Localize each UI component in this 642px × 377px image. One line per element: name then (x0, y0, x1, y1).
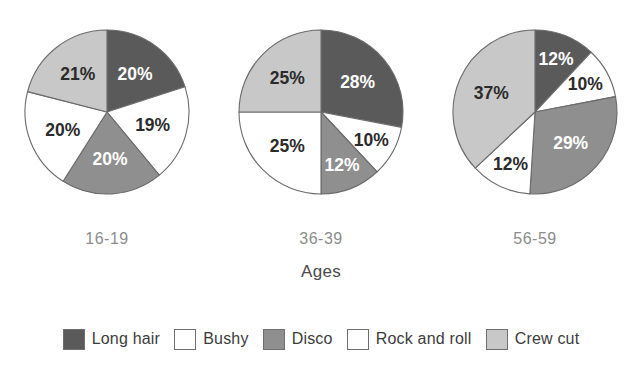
slice-value-label: 20% (45, 120, 80, 140)
legend-label: Bushy (203, 330, 248, 348)
age-group-label-0: 16-19 (0, 230, 214, 248)
legend-label: Disco (292, 330, 333, 348)
legend-label: Crew cut (515, 330, 580, 348)
legend-swatch-icon (486, 329, 508, 350)
legend-swatch-icon (174, 329, 196, 350)
pie-chart-group-0: 20%19%20%20%21% 16-19 (0, 0, 214, 250)
slice-value-label: 29% (553, 133, 588, 153)
legend-item[interactable]: Disco (263, 329, 333, 350)
slice-value-label: 21% (60, 64, 95, 84)
age-group-label-2: 56-59 (428, 230, 642, 248)
chart-legend: Long hairBushyDiscoRock and rollCrew cut (0, 322, 642, 356)
pie-charts-row: 20%19%20%20%21% 16-19 28%10%12%25%25% 36… (0, 0, 642, 250)
pie-svg-1: 28%10%12%25%25% (231, 22, 411, 202)
slice-value-label: 12% (493, 154, 528, 174)
slice-value-label: 25% (270, 68, 305, 88)
legend-item[interactable]: Rock and roll (347, 329, 472, 350)
slice-value-label: 37% (474, 83, 509, 103)
pie-chart-group-1: 28%10%12%25%25% 36-39 (214, 0, 428, 250)
pie-chart-group-2: 12%10%29%12%37% 56-59 (428, 0, 642, 250)
slice-value-label: 28% (340, 72, 375, 92)
slice-value-label: 10% (354, 130, 389, 150)
legend-label: Rock and roll (376, 330, 472, 348)
slice-value-label: 20% (117, 64, 152, 84)
age-group-label-1: 36-39 (214, 230, 428, 248)
slice-value-label: 12% (539, 49, 574, 69)
legend-item[interactable]: Long hair (63, 329, 161, 350)
legend-item[interactable]: Crew cut (486, 329, 580, 350)
pie-chart-figure: 20%19%20%20%21% 16-19 28%10%12%25%25% 36… (0, 0, 642, 377)
legend-swatch-icon (347, 329, 369, 350)
slice-value-label: 12% (325, 155, 360, 175)
slice-value-label: 20% (92, 149, 127, 169)
legend-item[interactable]: Bushy (174, 329, 248, 350)
legend-swatch-icon (63, 329, 85, 350)
slice-value-label: 19% (135, 115, 170, 135)
slice-value-label: 10% (568, 74, 603, 94)
pie-svg-2: 12%10%29%12%37% (445, 22, 625, 202)
slice-value-label: 25% (270, 136, 305, 156)
legend-swatch-icon (263, 329, 285, 350)
legend-label: Long hair (92, 330, 161, 348)
axis-title-ages: Ages (0, 262, 642, 282)
pie-svg-0: 20%19%20%20%21% (17, 22, 197, 202)
